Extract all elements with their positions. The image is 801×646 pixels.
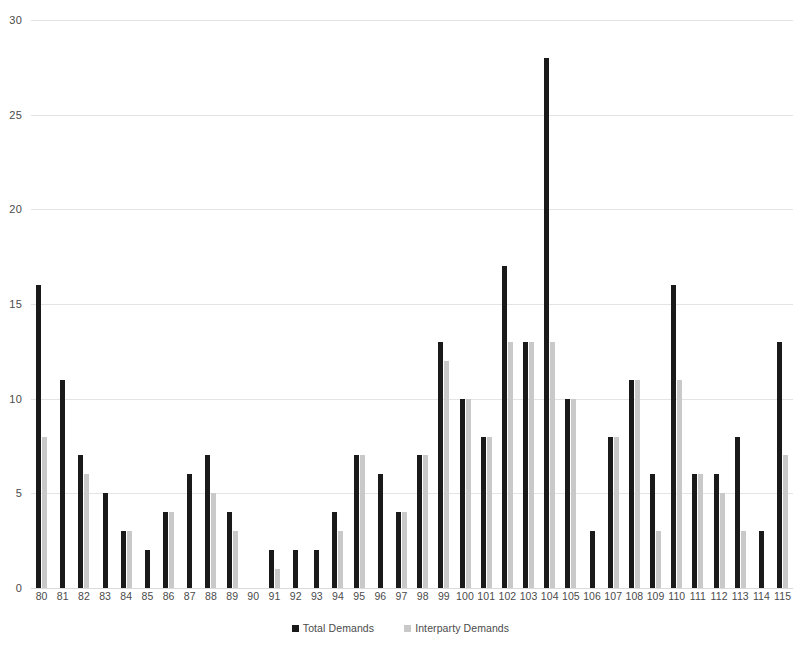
bar-total	[354, 455, 359, 588]
bar-total	[629, 380, 634, 588]
bar-total	[671, 285, 676, 588]
bar-group	[560, 20, 581, 588]
bar-total	[332, 512, 337, 588]
bar-interparty	[741, 531, 746, 588]
legend-label-interparty-demands: Interparty Demands	[415, 622, 509, 634]
bar-group	[327, 20, 348, 588]
bar-interparty	[402, 512, 407, 588]
bar-interparty	[656, 531, 661, 588]
bar-total	[60, 380, 65, 588]
x-axis-tick-label: 105	[560, 590, 581, 610]
bar-interparty	[84, 474, 89, 588]
legend-item-interparty-demands: Interparty Demands	[404, 622, 509, 634]
x-axis-tick-label: 99	[433, 590, 454, 610]
x-axis-tick-label: 114	[751, 590, 772, 610]
bar-interparty	[487, 437, 492, 588]
bar-total	[565, 399, 570, 588]
bar-total	[417, 455, 422, 588]
y-axis-tick-label: 25	[9, 109, 22, 121]
bar-total	[145, 550, 150, 588]
bar-group	[370, 20, 391, 588]
x-axis-tick-label: 97	[391, 590, 412, 610]
x-axis-tick-label: 82	[73, 590, 94, 610]
y-axis-tick-label: 20	[9, 203, 22, 215]
bar-interparty	[571, 399, 576, 588]
bar-group	[645, 20, 666, 588]
x-axis-tick-label: 103	[518, 590, 539, 610]
bar-total	[438, 342, 443, 588]
bar-interparty	[508, 342, 513, 588]
x-axis-tick-label: 110	[666, 590, 687, 610]
bar-group	[518, 20, 539, 588]
y-axis-tick-label: 30	[9, 14, 22, 26]
x-axis-tick-label: 108	[624, 590, 645, 610]
bar-total	[714, 474, 719, 588]
x-axis-tick-label: 106	[581, 590, 602, 610]
bar-interparty	[698, 474, 703, 588]
bar-total	[396, 512, 401, 588]
bar-total	[523, 342, 528, 588]
plot-area	[31, 20, 793, 588]
bar-interparty	[233, 531, 238, 588]
bar-group	[751, 20, 772, 588]
x-axis-tick-label: 89	[222, 590, 243, 610]
bar-total	[759, 531, 764, 588]
bar-group	[349, 20, 370, 588]
bar-interparty	[42, 437, 47, 588]
bar-total	[502, 266, 507, 588]
x-axis-tick-label: 111	[687, 590, 708, 610]
bar-interparty	[529, 342, 534, 588]
x-axis-tick-label: 115	[772, 590, 793, 610]
bar-group	[222, 20, 243, 588]
bar-total	[121, 531, 126, 588]
x-axis-tick-label: 85	[137, 590, 158, 610]
gray-square-swatch-icon	[404, 625, 411, 632]
bar-interparty	[720, 493, 725, 588]
bar-group	[73, 20, 94, 588]
bar-group	[476, 20, 497, 588]
legend-item-total-demands: Total Demands	[292, 622, 374, 634]
bar-total	[460, 399, 465, 588]
bar-group	[391, 20, 412, 588]
chart-legend: Total Demands Interparty Demands	[0, 622, 801, 634]
x-axis-tick-label: 87	[179, 590, 200, 610]
bar-group	[285, 20, 306, 588]
bar-group	[433, 20, 454, 588]
bar-group	[730, 20, 751, 588]
gridline	[31, 588, 793, 589]
bar-total	[481, 437, 486, 588]
bar-group	[31, 20, 52, 588]
bar-total	[227, 512, 232, 588]
bar-interparty	[423, 455, 428, 588]
bar-group	[243, 20, 264, 588]
bar-total	[269, 550, 274, 588]
bar-interparty	[360, 455, 365, 588]
x-axis: 8081828384858687888990919293949596979899…	[31, 590, 793, 610]
y-axis-tick-label: 5	[16, 487, 22, 499]
bar-total	[544, 58, 549, 588]
x-axis-tick-label: 91	[264, 590, 285, 610]
bar-interparty	[169, 512, 174, 588]
bar-interparty	[783, 455, 788, 588]
bar-total	[378, 474, 383, 588]
bar-chart: 302520151050 808182838485868788899091929…	[0, 0, 801, 646]
bar-group	[709, 20, 730, 588]
bar-group	[306, 20, 327, 588]
bar-interparty	[211, 493, 216, 588]
x-axis-tick-label: 80	[31, 590, 52, 610]
bar-series-container	[31, 20, 793, 588]
bar-group	[581, 20, 602, 588]
x-axis-tick-label: 86	[158, 590, 179, 610]
x-axis-tick-label: 102	[497, 590, 518, 610]
x-axis-tick-label: 104	[539, 590, 560, 610]
x-axis-tick-label: 90	[243, 590, 264, 610]
bar-group	[454, 20, 475, 588]
x-axis-tick-label: 96	[370, 590, 391, 610]
bar-interparty	[614, 437, 619, 588]
bar-group	[179, 20, 200, 588]
bar-total	[650, 474, 655, 588]
black-square-swatch-icon	[292, 625, 299, 632]
x-axis-tick-label: 88	[200, 590, 221, 610]
bar-group	[603, 20, 624, 588]
bar-total	[187, 474, 192, 588]
